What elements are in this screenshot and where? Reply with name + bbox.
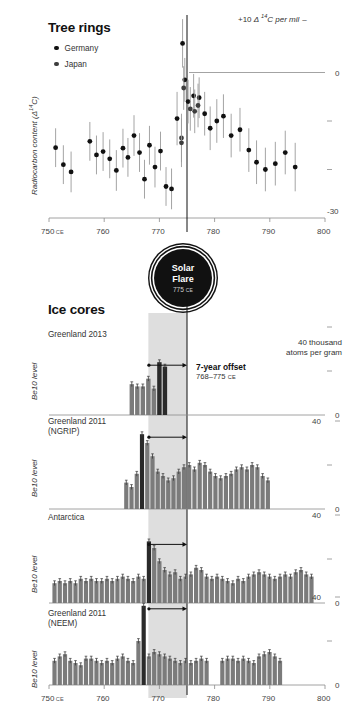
bar xyxy=(58,581,62,603)
ice-cores-xtick: 780 xyxy=(207,694,221,703)
bar xyxy=(63,654,67,685)
bar xyxy=(257,656,261,685)
panel-zero-tick: 0 xyxy=(335,599,340,608)
bar xyxy=(241,659,245,685)
bar xyxy=(79,665,83,685)
scatter-point xyxy=(293,165,298,170)
bar xyxy=(240,467,244,509)
bar xyxy=(152,548,156,603)
scatter-point xyxy=(137,150,142,155)
tree-rings-xtick: 790 xyxy=(262,227,276,236)
panel-top-tick: 40 xyxy=(312,593,321,602)
scatter-point xyxy=(214,119,219,124)
tree-rings-min-tick: -30 xyxy=(327,207,339,216)
bar xyxy=(184,661,188,685)
bar xyxy=(100,581,104,603)
scatter-point xyxy=(182,77,187,82)
bar xyxy=(94,661,98,685)
bar xyxy=(68,661,72,685)
bar xyxy=(225,659,229,685)
bar xyxy=(84,581,88,603)
bar xyxy=(194,568,198,603)
bar xyxy=(246,661,250,685)
bar xyxy=(63,583,67,603)
bar xyxy=(135,386,139,415)
bar xyxy=(241,581,245,603)
tree-rings-xtick: 780 xyxy=(207,227,221,236)
bar xyxy=(115,579,119,603)
panel-top-tick: 40 xyxy=(312,417,321,426)
bar xyxy=(194,661,198,685)
bar xyxy=(213,476,217,509)
bar xyxy=(224,476,228,509)
ice-cores-chart: 0400400400750CE760770780790800 xyxy=(0,295,346,715)
scatter-point xyxy=(192,109,197,114)
bar xyxy=(124,483,128,509)
bar xyxy=(210,579,214,603)
scatter-point xyxy=(101,149,106,154)
ice-cores-xtick: 790 xyxy=(262,694,276,703)
bar xyxy=(231,659,235,685)
scatter-point xyxy=(186,99,191,104)
bar xyxy=(136,577,140,603)
bar xyxy=(192,469,196,509)
bar xyxy=(156,472,160,509)
bar xyxy=(267,652,271,685)
bar xyxy=(199,659,203,685)
bar xyxy=(236,661,240,685)
bar xyxy=(278,577,282,603)
bar xyxy=(152,652,156,685)
bar xyxy=(229,474,233,509)
tree-rings-xtick: 750CE xyxy=(41,227,64,236)
scatter-point xyxy=(94,153,99,158)
bar xyxy=(255,467,259,509)
bar xyxy=(219,478,223,509)
bar xyxy=(163,656,167,685)
bar xyxy=(252,663,256,685)
bar xyxy=(189,574,193,603)
bar xyxy=(184,577,188,603)
tree-rings-xtick: 760 xyxy=(96,227,110,236)
bar xyxy=(250,465,254,509)
bar xyxy=(58,656,62,685)
bar xyxy=(267,577,271,603)
bar xyxy=(147,541,151,603)
scatter-point xyxy=(107,156,112,161)
panel-top-tick: 40 xyxy=(312,511,321,520)
flare-year: 775 CE xyxy=(173,286,193,293)
bar xyxy=(129,487,133,509)
bar xyxy=(199,570,203,603)
scatter-point xyxy=(202,111,207,116)
scatter-point xyxy=(153,165,158,170)
bar xyxy=(168,574,172,603)
bar xyxy=(131,581,135,603)
bar xyxy=(220,579,224,603)
bar xyxy=(157,561,161,603)
scatter-point xyxy=(121,146,126,151)
bar xyxy=(79,579,83,603)
scatter-point xyxy=(180,41,185,46)
ice-cores-xtick: 760 xyxy=(96,694,110,703)
scatter-point xyxy=(179,140,184,145)
scatter-point xyxy=(147,143,152,148)
bar xyxy=(187,465,191,509)
bar xyxy=(73,583,77,603)
bar xyxy=(52,583,56,603)
tree-rings-chart: 0-30750CE760770780790800 xyxy=(0,0,346,240)
ice-cores-xtick: 770 xyxy=(151,694,165,703)
scatter-point xyxy=(181,86,186,91)
bar xyxy=(245,469,249,509)
bar xyxy=(273,579,277,603)
scatter-point xyxy=(263,167,268,172)
bar xyxy=(146,379,150,415)
bar xyxy=(173,572,177,603)
bar xyxy=(145,443,149,509)
bar xyxy=(246,577,250,603)
scatter-point xyxy=(191,93,196,98)
bar xyxy=(252,574,256,603)
bar xyxy=(299,570,303,603)
bar xyxy=(105,661,109,685)
bar xyxy=(262,574,266,603)
bar xyxy=(150,456,154,509)
bar xyxy=(177,472,181,509)
